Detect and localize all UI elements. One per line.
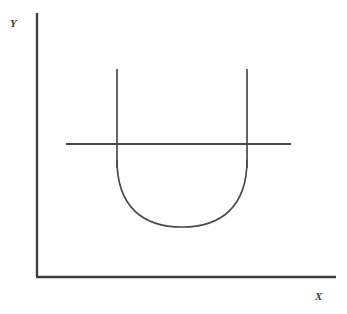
x-axis-label: X	[315, 291, 322, 302]
figure-container: Y X	[0, 0, 347, 314]
plot-canvas	[0, 0, 347, 314]
y-axis-label: Y	[10, 18, 17, 29]
u-curve	[117, 160, 247, 227]
